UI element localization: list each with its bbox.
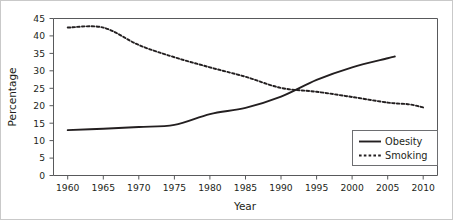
x-tick-label: 1970 <box>127 182 151 193</box>
x-tick-group-9: 2005 <box>376 176 400 194</box>
y-tick-group-3: 15 <box>33 118 53 129</box>
y-tick-label: 45 <box>33 13 45 24</box>
y-tick-group-4: 20 <box>33 100 53 111</box>
x-tick-group-3: 1975 <box>163 176 187 194</box>
x-tick-group-5: 1985 <box>234 176 258 194</box>
y-tick-label: 20 <box>33 100 45 111</box>
y-tick-group-9: 45 <box>33 13 53 24</box>
legend-label-obesity: Obesity <box>385 136 423 147</box>
y-tick-group-8: 40 <box>33 30 53 41</box>
x-tick-label: 1990 <box>269 182 293 193</box>
y-axis: 0 5 10 15 20 25 <box>33 13 53 181</box>
y-tick-label: 35 <box>33 48 45 59</box>
chart-figure: 0 5 10 15 20 25 <box>0 0 453 220</box>
x-tick-label: 1960 <box>56 182 80 193</box>
series-line-obesity <box>68 57 395 131</box>
y-tick-label: 25 <box>33 83 45 94</box>
y-tick-group-6: 30 <box>33 65 53 76</box>
x-tick-group-0: 1960 <box>56 176 80 194</box>
y-axis-title: Percentage <box>6 67 18 126</box>
series-line-smoking <box>68 26 424 107</box>
y-tick-group-0: 0 <box>39 170 53 181</box>
x-tick-label: 2000 <box>340 182 364 193</box>
y-tick-group-2: 10 <box>33 135 53 146</box>
y-tick-label: 10 <box>33 135 45 146</box>
x-tick-label: 1965 <box>92 182 116 193</box>
legend-label-smoking: Smoking <box>385 150 428 161</box>
x-tick-group-6: 1990 <box>269 176 293 194</box>
y-tick-label: 40 <box>33 30 45 41</box>
x-tick-label: 1995 <box>305 182 329 193</box>
y-tick-group-5: 25 <box>33 83 53 94</box>
x-axis: 1960 1965 1970 1975 1980 1985 <box>56 176 435 194</box>
y-tick-group-7: 35 <box>33 48 53 59</box>
x-tick-label: 1975 <box>163 182 187 193</box>
chart-legend[interactable]: Obesity Smoking <box>353 131 438 166</box>
x-tick-label: 2005 <box>376 182 400 193</box>
x-axis-title: Year <box>233 200 257 212</box>
y-tick-label: 5 <box>39 152 45 163</box>
x-tick-group-10: 2010 <box>412 176 436 194</box>
x-tick-label: 1985 <box>234 182 258 193</box>
x-tick-group-1: 1965 <box>92 176 116 194</box>
y-tick-label: 15 <box>33 118 45 129</box>
x-tick-group-8: 2000 <box>340 176 364 194</box>
x-tick-group-7: 1995 <box>305 176 329 194</box>
y-tick-label: 30 <box>33 65 45 76</box>
x-tick-group-4: 1980 <box>198 176 222 194</box>
line-chart-svg: 0 5 10 15 20 25 <box>0 0 453 220</box>
x-tick-group-2: 1970 <box>127 176 151 194</box>
x-tick-label: 2010 <box>412 182 436 193</box>
y-tick-label: 0 <box>39 170 45 181</box>
x-tick-label: 1980 <box>198 182 222 193</box>
y-tick-group-1: 5 <box>39 152 53 163</box>
